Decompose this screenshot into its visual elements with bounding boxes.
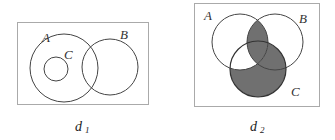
label-c: C (64, 47, 73, 62)
diagram-d1: A C B d1 (18, 23, 149, 136)
venn-diagrams: A C B d1 A B C d2 (0, 0, 335, 140)
caption-d1: d1 (75, 119, 90, 135)
label-c: C (291, 84, 300, 99)
label-a: A (41, 30, 50, 45)
label-a: A (203, 8, 212, 23)
set-b-circle (82, 39, 138, 95)
caption-d2: d2 (250, 119, 265, 135)
label-b: B (120, 27, 128, 42)
set-a-circle (30, 34, 98, 102)
universe-frame (18, 23, 149, 105)
diagram-d2: A B C d2 (195, 4, 320, 136)
label-b: B (299, 11, 307, 26)
